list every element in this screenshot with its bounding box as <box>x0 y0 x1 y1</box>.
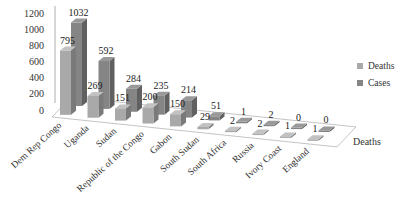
bar-deaths <box>60 47 76 115</box>
x-tick-label: Gabon <box>148 131 174 156</box>
y-tick-label: 1000 <box>24 24 44 35</box>
legend-label-cases: Cases <box>368 78 390 88</box>
legend-label-deaths: Deaths <box>368 61 394 71</box>
bar-deaths <box>143 103 159 123</box>
bar-chart-3d: 020040060080010001200Deaths 103259228423… <box>0 0 415 218</box>
x-tick-label: Uganda <box>62 122 91 150</box>
bar-deaths <box>198 123 214 129</box>
bar-deaths <box>280 132 296 138</box>
data-label: 29 <box>200 111 210 122</box>
bar-deaths <box>253 130 269 136</box>
y-tick-label: 800 <box>29 40 44 51</box>
x-tick-label: Dem Rep Congo <box>9 120 63 170</box>
bar-cases <box>209 112 225 120</box>
data-label: 795 <box>60 35 75 46</box>
data-label: 2 <box>269 109 274 120</box>
data-label: 150 <box>170 98 185 109</box>
data-label: 1032 <box>69 7 89 18</box>
bar-cases <box>264 121 280 127</box>
legend-swatch-cases <box>357 80 363 86</box>
y-tick-label: 1200 <box>24 8 44 19</box>
bar-deaths <box>170 110 186 126</box>
legend-item-cases: Cases <box>357 74 394 91</box>
x-tick-label: Russia <box>230 140 256 165</box>
y-tick-label: 600 <box>29 56 44 67</box>
data-label: 0 <box>296 112 301 123</box>
y-tick-label: 400 <box>29 72 44 83</box>
y-tick-label: 0 <box>39 105 44 116</box>
data-label: 200 <box>143 91 158 102</box>
y-tick-label: 200 <box>29 88 44 99</box>
data-label: 269 <box>88 80 103 91</box>
x-tick-label: England <box>281 146 311 175</box>
depth-axis-label: Deaths <box>353 136 381 147</box>
bar-deaths <box>308 135 324 141</box>
bar-deaths <box>225 127 241 132</box>
x-tick-label: Sudan <box>94 126 119 149</box>
data-label: 235 <box>154 80 169 91</box>
bar-cases <box>236 118 252 124</box>
data-label: 0 <box>324 114 329 125</box>
data-label: 2 <box>230 115 235 126</box>
legend-swatch-deaths <box>357 63 363 69</box>
data-label: 1 <box>285 120 290 131</box>
data-label: 592 <box>99 45 114 56</box>
legend-item-deaths: Deaths <box>357 57 394 74</box>
data-label: 284 <box>126 73 141 84</box>
bar-cases <box>319 126 335 132</box>
bar-deaths <box>115 104 131 120</box>
data-label: 1 <box>241 106 246 117</box>
legend: Deaths Cases <box>357 57 394 91</box>
data-label: 51 <box>211 100 221 111</box>
data-label: 1 <box>313 123 318 134</box>
data-label: 2 <box>258 118 263 129</box>
bar-cases <box>291 124 307 130</box>
bar-deaths <box>88 92 104 118</box>
data-label: 214 <box>181 84 196 95</box>
data-label: 151 <box>115 92 130 103</box>
